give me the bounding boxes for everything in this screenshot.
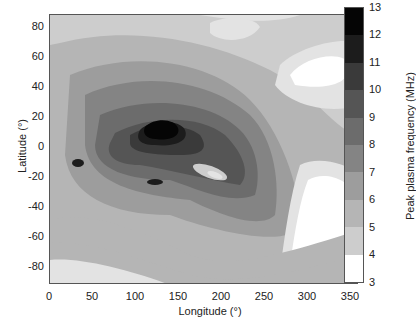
y-tick: 40 bbox=[14, 80, 44, 92]
colorbar-tick: 3 bbox=[369, 276, 375, 288]
y-tick: -80 bbox=[14, 260, 44, 272]
y-tick: 60 bbox=[14, 50, 44, 62]
contour-plot bbox=[49, 14, 358, 284]
colorbar-tick: 6 bbox=[369, 193, 375, 205]
x-tick: 0 bbox=[34, 290, 64, 302]
colorbar-tick: 13 bbox=[369, 1, 381, 13]
colorbar-tick: 10 bbox=[369, 83, 381, 95]
x-tick: 200 bbox=[206, 290, 236, 302]
x-tick: 100 bbox=[120, 290, 150, 302]
x-tick: 250 bbox=[249, 290, 279, 302]
x-tick: 150 bbox=[163, 290, 193, 302]
x-axis-label: Longitude (°) bbox=[150, 305, 270, 317]
colorbar-tick: 9 bbox=[369, 111, 375, 123]
x-tick: 50 bbox=[77, 290, 107, 302]
colorbar-tick: 7 bbox=[369, 166, 375, 178]
colorbar-label: Peak plasma frequency (MHz) bbox=[404, 71, 416, 221]
colorbar bbox=[344, 7, 364, 283]
colorbar-tick: 11 bbox=[369, 56, 380, 68]
y-axis-label: Latitude (°) bbox=[16, 106, 28, 186]
x-tick: 350 bbox=[335, 290, 365, 302]
colorbar-tick: 8 bbox=[369, 138, 375, 150]
colorbar-tick: 5 bbox=[369, 221, 375, 233]
y-tick: 80 bbox=[14, 20, 44, 32]
colorbar-tick: 4 bbox=[369, 248, 375, 260]
colorbar-tick: 12 bbox=[369, 28, 381, 40]
x-tick: 300 bbox=[292, 290, 322, 302]
y-tick: -60 bbox=[14, 230, 44, 242]
y-tick: -40 bbox=[14, 200, 44, 212]
